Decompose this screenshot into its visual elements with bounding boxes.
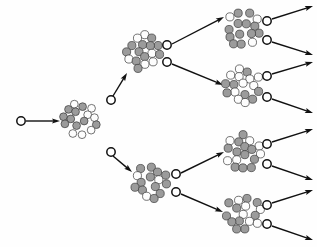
neutron-icon bbox=[227, 71, 235, 79]
proton-icon bbox=[243, 194, 251, 202]
proton-icon bbox=[61, 120, 69, 128]
proton-icon bbox=[131, 183, 139, 191]
proton-icon bbox=[242, 20, 250, 28]
fission-chain-reaction-figure bbox=[0, 0, 317, 247]
neutron-icon bbox=[87, 126, 95, 134]
proton-icon bbox=[134, 64, 142, 72]
proton-icon bbox=[246, 9, 254, 17]
neutron-icon bbox=[242, 202, 250, 210]
proton-icon bbox=[60, 113, 68, 121]
proton-icon bbox=[248, 145, 256, 153]
free-neutron-icon bbox=[107, 96, 115, 104]
proton-icon bbox=[239, 131, 247, 139]
chain-reaction-canvas bbox=[0, 0, 317, 247]
proton-icon bbox=[73, 122, 81, 130]
proton-icon bbox=[247, 164, 255, 172]
proton-icon bbox=[146, 173, 154, 181]
free-neutron-icon bbox=[263, 72, 271, 80]
neutron-icon bbox=[239, 79, 247, 87]
neutron-icon bbox=[78, 131, 86, 139]
neutron-icon bbox=[253, 219, 261, 227]
proton-icon bbox=[247, 29, 255, 37]
proton-icon bbox=[225, 25, 233, 33]
proton-icon bbox=[224, 144, 232, 152]
proton-icon bbox=[234, 9, 242, 17]
proton-icon bbox=[225, 199, 233, 207]
proton-icon bbox=[250, 155, 258, 163]
free-neutron-icon bbox=[263, 93, 271, 101]
proton-icon bbox=[162, 180, 170, 188]
proton-icon bbox=[235, 217, 243, 225]
neutron-icon bbox=[149, 58, 157, 66]
proton-icon bbox=[148, 34, 156, 42]
proton-icon bbox=[154, 41, 162, 49]
neutron-icon bbox=[235, 65, 243, 73]
free-neutron-icon bbox=[263, 220, 271, 228]
proton-icon bbox=[241, 225, 249, 233]
neutron-icon bbox=[233, 156, 241, 164]
free-neutron-icon bbox=[107, 148, 115, 156]
free-neutron-icon bbox=[263, 201, 271, 209]
neutron-icon bbox=[226, 13, 234, 21]
proton-icon bbox=[233, 225, 241, 233]
proton-icon bbox=[65, 106, 73, 114]
neutron-icon bbox=[241, 98, 249, 106]
proton-icon bbox=[72, 108, 80, 116]
neutron-icon bbox=[245, 217, 253, 225]
free-neutron-icon bbox=[163, 41, 171, 49]
proton-icon bbox=[162, 171, 170, 179]
proton-icon bbox=[234, 19, 242, 27]
proton-icon bbox=[79, 103, 87, 111]
proton-icon bbox=[254, 87, 262, 95]
proton-icon bbox=[151, 183, 159, 191]
neutron-icon bbox=[69, 130, 77, 138]
neutron-icon bbox=[226, 137, 234, 145]
free-neutron-icon bbox=[263, 140, 271, 148]
neutron-icon bbox=[255, 142, 263, 150]
proton-icon bbox=[233, 204, 241, 212]
proton-icon bbox=[255, 29, 263, 37]
free-neutron-icon bbox=[172, 170, 180, 178]
proton-icon bbox=[150, 194, 158, 202]
proton-icon bbox=[249, 95, 257, 103]
neutron-icon bbox=[231, 88, 239, 96]
free-neutron-icon bbox=[263, 36, 271, 44]
proton-icon bbox=[221, 80, 229, 88]
proton-icon bbox=[228, 218, 236, 226]
free-neutron-icon bbox=[172, 188, 180, 196]
proton-icon bbox=[80, 117, 88, 125]
proton-icon bbox=[230, 81, 238, 89]
proton-icon bbox=[223, 89, 231, 97]
proton-icon bbox=[141, 53, 149, 61]
proton-icon bbox=[146, 42, 154, 50]
proton-icon bbox=[156, 50, 164, 58]
proton-icon bbox=[229, 40, 237, 48]
neutron-icon bbox=[91, 114, 99, 122]
neutron-icon bbox=[224, 157, 232, 165]
neutron-icon bbox=[248, 38, 256, 46]
proton-icon bbox=[132, 57, 140, 65]
neutron-icon bbox=[143, 192, 151, 200]
proton-icon bbox=[236, 30, 244, 38]
neutron-icon bbox=[148, 49, 156, 57]
proton-icon bbox=[239, 164, 247, 172]
free-neutron-icon bbox=[17, 117, 25, 125]
proton-icon bbox=[233, 148, 241, 156]
proton-icon bbox=[237, 40, 245, 48]
neutron-icon bbox=[235, 196, 243, 204]
free-neutron-icon bbox=[163, 58, 171, 66]
proton-icon bbox=[231, 163, 239, 171]
free-neutron-icon bbox=[263, 17, 271, 25]
proton-icon bbox=[153, 168, 161, 176]
neutron-icon bbox=[125, 55, 133, 63]
proton-icon bbox=[241, 151, 249, 159]
neutron-icon bbox=[254, 73, 262, 81]
free-neutron-icon bbox=[263, 160, 271, 168]
